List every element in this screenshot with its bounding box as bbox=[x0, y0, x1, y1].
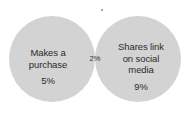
venn-overlap-percent: 2% bbox=[80, 54, 110, 63]
venn-right-set-text: Shares link on social media bbox=[118, 41, 164, 75]
venn-left-set-label: Makes a purchase 5% bbox=[11, 36, 85, 98]
venn-right-set-label: Shares link on social media 9% bbox=[104, 30, 178, 103]
stray-speck-mark bbox=[101, 9, 103, 11]
venn-left-set-percent: 5% bbox=[11, 75, 85, 86]
venn-label-layer: Makes a purchase 5% Shares link on socia… bbox=[0, 0, 190, 119]
venn-diagram: Makes a purchase 5% Shares link on socia… bbox=[0, 0, 190, 119]
venn-right-set-percent: 9% bbox=[104, 81, 178, 92]
venn-left-set-text: Makes a purchase bbox=[29, 47, 67, 69]
